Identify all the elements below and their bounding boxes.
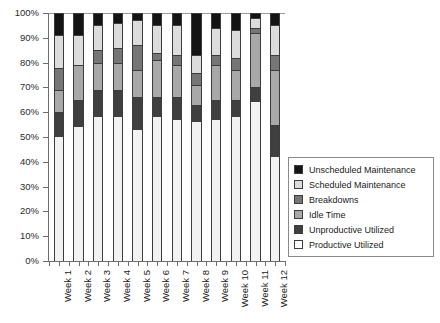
bar-segment (212, 55, 220, 65)
bar-segment (94, 13, 102, 25)
stacked-bar[interactable] (132, 13, 142, 261)
bar-segment (271, 25, 279, 55)
bar-segment (133, 130, 141, 261)
legend-label: Unscheduled Maintenance (309, 165, 416, 175)
bar-segment (74, 127, 82, 261)
y-axis-tick-mark (43, 137, 48, 138)
bar-segment (251, 18, 259, 28)
y-axis-tick-label: 0% (25, 256, 39, 266)
bar-segment (192, 73, 200, 85)
bar-segment (212, 120, 220, 261)
bar-segment (74, 35, 82, 65)
bar-segment (271, 70, 279, 125)
bar-segment (74, 65, 82, 100)
y-axis-tick-label: 40% (20, 157, 39, 167)
x-axis-tick-mark (265, 261, 266, 266)
y-axis-tick-mark (43, 187, 48, 188)
x-axis-tick-mark (98, 261, 99, 266)
y-axis-tick-label: 70% (20, 82, 39, 92)
bar-segment (192, 122, 200, 261)
bar-segment (114, 90, 122, 117)
bar-slot (93, 13, 103, 261)
x-axis-tick-label: Week 4 (122, 270, 132, 302)
x-axis-tick-label: Week 9 (220, 270, 230, 302)
stacked-bar[interactable] (113, 13, 123, 261)
bar-slot (113, 13, 123, 261)
bar-segment (55, 13, 63, 35)
legend-item[interactable]: Unproductive Utilized (294, 222, 429, 237)
bar-segment (55, 137, 63, 261)
bar-segment (212, 13, 220, 28)
bar-segment (55, 35, 63, 67)
stacked-bar[interactable] (231, 13, 241, 261)
legend-item[interactable]: Idle Time (294, 207, 429, 222)
legend-swatch-icon (294, 210, 303, 219)
stacked-bar[interactable] (211, 13, 221, 261)
x-axis-tick-mark (88, 261, 89, 266)
stacked-bar[interactable] (172, 13, 182, 261)
y-axis-tick-label: 100% (15, 8, 39, 18)
bar-segment (232, 100, 240, 117)
stacked-bar[interactable] (93, 13, 103, 261)
x-axis-tick-mark (236, 261, 237, 266)
x-axis-tick-mark (128, 261, 129, 266)
x-axis-tick-mark (49, 261, 50, 266)
legend-item[interactable]: Scheduled Maintenance (294, 177, 429, 192)
plot-area (49, 13, 285, 261)
bar-slot (152, 13, 162, 261)
bar-segment (55, 68, 63, 90)
x-axis-tick-label: Week 6 (161, 270, 171, 302)
x-axis-tick-mark (285, 261, 286, 266)
bar-segment (133, 97, 141, 129)
x-axis-tick-mark (197, 261, 198, 266)
bar-segment (153, 60, 161, 97)
bar-segment (55, 90, 63, 112)
y-axis-tick-mark (43, 87, 48, 88)
stacked-bar[interactable] (73, 13, 83, 261)
legend-swatch-icon (294, 195, 303, 204)
bar-slot (250, 13, 260, 261)
bar-segment (114, 63, 122, 90)
x-axis-tick-label: Week 12 (279, 270, 289, 307)
x-axis-tick-label: Week 3 (102, 270, 112, 302)
bar-segment (173, 25, 181, 55)
bar-segment (232, 13, 240, 30)
legend-item[interactable]: Productive Utilized (294, 237, 429, 252)
bar-segment (251, 33, 259, 88)
stacked-bar[interactable] (152, 13, 162, 261)
x-axis-tick-mark (226, 261, 227, 266)
stacked-bar[interactable] (54, 13, 64, 261)
legend-swatch-icon (294, 165, 303, 174)
bar-slot (270, 13, 280, 261)
x-axis-tick-mark (138, 261, 139, 266)
bar-segment (271, 55, 279, 70)
bar-slot (54, 13, 64, 261)
bar-segment (153, 53, 161, 60)
bar-segment (192, 55, 200, 72)
legend-label: Scheduled Maintenance (309, 180, 406, 190)
legend-label: Idle Time (309, 210, 346, 220)
bar-segment (94, 25, 102, 50)
y-axis-tick-mark (43, 63, 48, 64)
x-axis-tick-mark (79, 261, 80, 266)
bar-segment (153, 25, 161, 52)
y-axis-tick-mark (43, 211, 48, 212)
bar-segment (114, 13, 122, 23)
legend-item[interactable]: Breakdowns (294, 192, 429, 207)
x-axis-tick-label: Week 5 (142, 270, 152, 302)
x-axis-tick-mark (246, 261, 247, 266)
stacked-bar[interactable] (191, 13, 201, 261)
stacked-bar[interactable] (250, 13, 260, 261)
x-axis-tick-mark (167, 261, 168, 266)
x-axis-tick-label: Week 10 (240, 270, 250, 307)
y-axis: 0%10%20%30%40%50%60%70%80%90%100% (0, 8, 44, 266)
y-axis-tick-mark (43, 13, 48, 14)
stacked-bar[interactable] (270, 13, 280, 261)
legend-item[interactable]: Unscheduled Maintenance (294, 162, 429, 177)
chart-legend: Unscheduled MaintenanceScheduled Mainten… (288, 157, 434, 257)
stacked-bar-chart: 0%10%20%30%40%50%60%70%80%90%100% Unsche… (0, 0, 440, 323)
legend-label: Unproductive Utilized (309, 225, 394, 235)
bar-segment (133, 13, 141, 20)
legend-swatch-icon (294, 240, 303, 249)
bar-segment (212, 28, 220, 55)
